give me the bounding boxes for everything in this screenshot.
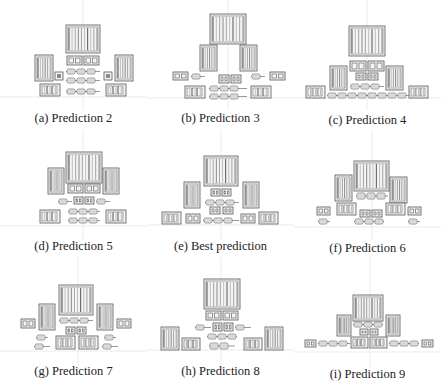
component-tall <box>161 327 179 350</box>
component-tall <box>386 315 400 336</box>
panel-f: (f) Prediction 6 <box>294 130 441 259</box>
component-small <box>368 73 378 80</box>
component-resistor <box>353 322 383 327</box>
layout-diagram-f <box>294 130 441 240</box>
panel-g: (g) Prediction 7 <box>0 257 147 386</box>
component-small <box>223 207 233 214</box>
component-small <box>360 210 370 217</box>
component-mod <box>106 210 126 223</box>
component-mod <box>182 338 200 350</box>
component-mod <box>386 203 405 215</box>
component-tall <box>335 175 352 201</box>
component-resistor <box>68 218 100 223</box>
component-tall <box>386 66 403 90</box>
component-small <box>67 56 82 65</box>
component-resistor <box>203 218 239 223</box>
component-resistor <box>318 219 330 224</box>
component-resistor <box>235 325 251 330</box>
component-small <box>350 61 366 71</box>
component-mod <box>162 212 181 224</box>
component-big <box>59 285 93 315</box>
component-small <box>408 207 421 215</box>
component-resistor <box>209 86 247 91</box>
component-small <box>370 329 378 335</box>
component-mod <box>351 337 368 348</box>
layout-diagram-g <box>0 257 147 367</box>
component-small <box>84 56 99 65</box>
component-mod <box>337 203 356 215</box>
component-small <box>206 311 221 320</box>
caption-i: (i) Prediction 9 <box>294 367 441 382</box>
panel-a: (a) Prediction 2 <box>0 0 147 129</box>
component-resistor <box>59 318 93 323</box>
component-small <box>173 72 188 80</box>
component-small <box>241 214 255 223</box>
component-resistor <box>354 219 384 224</box>
component-resistor <box>191 74 205 79</box>
component-small <box>270 72 285 80</box>
component-resistor <box>327 93 409 98</box>
component-tall <box>390 177 407 203</box>
component-small <box>117 319 131 328</box>
component-mod <box>40 84 60 96</box>
component-small <box>21 319 35 328</box>
component-resistor <box>207 334 237 339</box>
component-resistor <box>66 89 100 94</box>
caption-a: (a) Prediction 2 <box>0 111 147 126</box>
component-small <box>210 207 220 214</box>
component-small <box>305 340 316 347</box>
component-mod <box>370 337 387 348</box>
component-mod <box>56 336 75 349</box>
component-resistor <box>389 341 419 346</box>
panel-d: (d) Prediction 5 <box>0 130 147 259</box>
component-small <box>66 327 75 334</box>
component-resistor <box>96 199 110 204</box>
component-big <box>66 152 102 183</box>
component-tall <box>48 168 64 194</box>
component-small <box>68 184 83 193</box>
component-small <box>317 207 330 215</box>
layout-diagram-a <box>0 0 147 110</box>
component-resistor <box>36 335 48 340</box>
component-resistor <box>205 200 239 205</box>
component-big <box>66 25 100 53</box>
component-resistor <box>104 335 116 340</box>
layout-diagram-h <box>147 257 294 367</box>
component-resistor <box>195 325 211 330</box>
component-small <box>223 311 238 320</box>
component-big <box>210 14 246 44</box>
component-tall <box>115 55 133 81</box>
component-mod <box>409 86 428 98</box>
component-mod <box>79 336 98 349</box>
panel-i: (i) Prediction 9 <box>294 257 441 386</box>
panel-e: (e) Best prediction <box>147 130 294 259</box>
component-tall <box>39 304 55 330</box>
component-mod <box>259 212 278 224</box>
caption-f: (f) Prediction 6 <box>294 241 441 256</box>
component-small <box>422 340 433 347</box>
component-resistor <box>408 219 420 224</box>
caption-h: (h) Prediction 8 <box>147 364 294 379</box>
panel-h: (h) Prediction 8 <box>147 257 294 386</box>
layout-diagram-c <box>294 0 441 110</box>
component-mod <box>106 84 126 96</box>
caption-g: (g) Prediction 7 <box>0 364 147 379</box>
component-small <box>224 323 233 331</box>
component-resistor <box>350 84 384 89</box>
component-small <box>219 75 229 83</box>
component-resistor <box>102 344 118 349</box>
component-big <box>354 161 389 191</box>
component-chip <box>104 72 112 80</box>
layout-diagram-e <box>147 130 294 240</box>
component-small <box>77 327 86 334</box>
component-small <box>368 61 384 71</box>
component-small <box>222 189 231 196</box>
layout-diagram-d <box>0 130 147 240</box>
component-tall <box>184 182 200 208</box>
component-big <box>204 279 240 309</box>
panel-b: (b) Prediction 3 <box>147 0 294 129</box>
component-mod <box>251 86 271 98</box>
component-resistor <box>68 209 100 214</box>
component-small <box>213 323 222 331</box>
component-chip <box>55 72 63 80</box>
